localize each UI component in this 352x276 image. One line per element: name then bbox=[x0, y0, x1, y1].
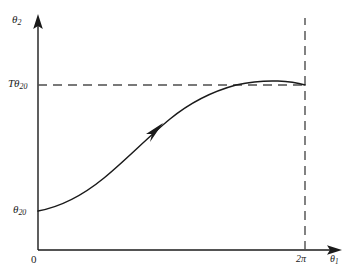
y-tick-label-theta-20-subscript: 20 bbox=[18, 208, 26, 217]
y-tick-label-t-theta-20-subscript: 20 bbox=[20, 82, 28, 91]
plot-area bbox=[0, 0, 352, 276]
figure-canvas: θ2 θ1 Tθ20 θ20 0 2π bbox=[0, 0, 352, 276]
x-axis-label-subscript: 1 bbox=[335, 258, 339, 266]
y-tick-label-t-theta-20-glyph: Tθ bbox=[8, 77, 20, 89]
x-axis-label: θ1 bbox=[330, 254, 339, 264]
y-axis-label: θ2 bbox=[12, 14, 21, 25]
curve-direction-arrow-icon bbox=[146, 123, 163, 142]
y-tick-label-t-theta-20: Tθ20 bbox=[8, 78, 27, 89]
y-axis-label-subscript: 2 bbox=[17, 18, 21, 27]
response-curve bbox=[38, 81, 305, 211]
origin-label: 0 bbox=[31, 254, 37, 265]
x-tick-label-two-pi: 2π bbox=[296, 254, 306, 264]
y-tick-label-theta-20: θ20 bbox=[13, 204, 26, 215]
